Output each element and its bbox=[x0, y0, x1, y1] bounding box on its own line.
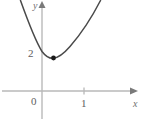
origin-label: 0 bbox=[31, 95, 37, 107]
x-tick-label-1: 1 bbox=[81, 97, 87, 109]
y-tick-label-2: 2 bbox=[28, 47, 34, 59]
y-axis-arrowhead bbox=[39, 1, 46, 8]
x-axis-arrowhead bbox=[130, 88, 138, 95]
vertex-point bbox=[51, 56, 56, 61]
parabola-figure: y x 0 1 2 bbox=[0, 0, 145, 122]
y-axis-label: y bbox=[32, 0, 38, 11]
x-axis-label: x bbox=[132, 98, 138, 109]
